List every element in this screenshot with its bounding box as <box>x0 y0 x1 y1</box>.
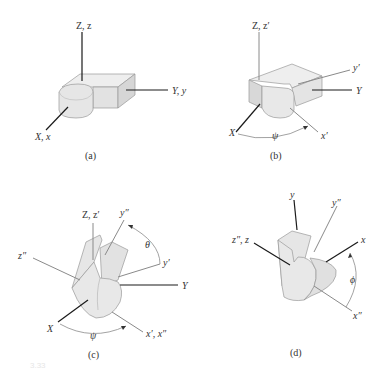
label-theta: θ <box>145 240 150 250</box>
label-x: X <box>229 128 235 138</box>
label-x-prime: x′, x″ <box>146 329 166 339</box>
label-y-prime: y′ <box>163 258 170 268</box>
label-psi: ψ <box>272 131 278 141</box>
label-psi: ψ <box>90 331 96 341</box>
panel-a-drawing <box>0 0 192 190</box>
label-y-double-prime: y″ <box>332 198 341 208</box>
label-x: X, x <box>35 132 51 142</box>
panel-d: y y″ z″, z x x″ ϕ (d) <box>192 190 385 376</box>
panel-b: Z, z′ y′ Y X x′ ψ (b) <box>192 0 385 190</box>
label-y: Y <box>182 281 188 291</box>
x-prime-axis <box>112 312 143 332</box>
panel-a: Z, z Y, y X, x (a) <box>0 0 192 190</box>
caption-d: (d) <box>290 348 302 358</box>
label-z-double-prime: z″ <box>18 251 26 261</box>
label-z: Z, z′ <box>252 21 270 31</box>
x-double-prime-axis <box>314 286 352 311</box>
label-y: Y, y <box>172 86 186 96</box>
label-z: z″, z <box>232 235 249 245</box>
caption-b: (b) <box>270 151 282 161</box>
label-y-double-prime: y″ <box>120 208 129 218</box>
label-y: y <box>290 190 294 200</box>
y-double-prime-axis <box>314 206 337 252</box>
x-axis <box>236 104 260 132</box>
z-double-prime-axis <box>33 258 80 280</box>
x-axis <box>46 107 68 130</box>
caption-c: (c) <box>88 350 99 360</box>
label-x-double-prime: x″ <box>353 311 362 321</box>
panel-c: Z, z′ y″ z″ y′ Y X x′, x″ θ ψ (c) 3.33 <box>0 190 192 376</box>
label-phi: ϕ <box>350 275 355 285</box>
y-prime-axis <box>118 264 160 277</box>
label-y: Y <box>356 86 362 96</box>
caption-a: (a) <box>85 151 96 161</box>
label-x: x <box>361 235 365 245</box>
y-axis <box>294 200 297 230</box>
label-x-prime: x′ <box>321 131 328 141</box>
label-z: Z, z′ <box>82 210 100 220</box>
label-x: X <box>47 324 53 334</box>
label-y-prime: y′ <box>353 63 360 73</box>
x-axis <box>58 300 88 322</box>
label-z: Z, z <box>76 21 92 31</box>
footer-text: 3.33 <box>30 362 46 370</box>
panel-d-drawing <box>192 190 385 376</box>
theta-arc <box>128 225 160 264</box>
